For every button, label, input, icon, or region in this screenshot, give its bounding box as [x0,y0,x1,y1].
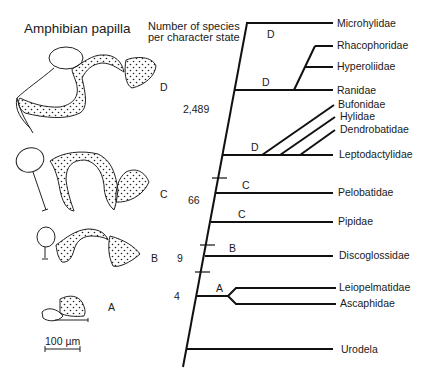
taxon-leptodactylidae: Leptodactylidae [339,149,413,160]
tree [183,23,336,367]
branch-label-discoglossidae: B [229,243,236,254]
taxon-pipidae: Pipidae [338,216,373,227]
species-count-d: 2,489 [183,104,209,115]
taxon-hyperoliidae: Hyperoliidae [337,61,395,72]
taxon-dendrobatidae: Dendrobatidae [340,124,409,135]
taxon-hylidae: Hylidae [340,111,375,122]
taxon-pelobatidae: Pelobatidae [338,187,393,198]
taxon-leiopelmatidae: Leiopelmatidae [339,282,410,293]
taxon-discoglossidae: Discoglossidae [339,250,410,261]
branch-label-ranidae: D [262,77,270,88]
papilla-d-drawing [16,47,156,133]
papilla-label-b: B [151,253,158,264]
taxon-bufonidae: Bufonidae [338,99,385,110]
column-header-line2: per character state [148,31,240,43]
branch-label-microhylidae: D [267,29,275,40]
papilla-label-a: A [108,302,115,313]
papilla-label-c: C [160,189,168,200]
branch-label-pipidae: C [238,209,246,220]
species-count-b: 9 [177,253,183,264]
taxon-rhacophoridae: Rhacophoridae [337,40,408,51]
taxon-urodela: Urodela [341,344,378,355]
papilla-c-drawing [13,144,149,211]
papilla-a-drawing [42,296,88,322]
scale-bar-label: 100 µm [45,336,80,347]
species-count-a: 4 [174,291,180,302]
papilla-label-d: D [160,82,168,93]
branch-label-leptodactylidae: D [251,142,259,153]
branch-label-leiopelmatidae: A [216,283,223,294]
taxon-ascaphidae: Ascaphidae [340,298,395,309]
taxon-ranidae: Ranidae [337,85,376,96]
papilla-b-drawing [37,227,140,266]
taxon-microhylidae: Microhylidae [337,18,396,29]
left-panel-title: Amphibian papilla [24,22,131,36]
species-count-c: 66 [188,195,200,206]
branch-label-pelobatidae: C [242,180,250,191]
